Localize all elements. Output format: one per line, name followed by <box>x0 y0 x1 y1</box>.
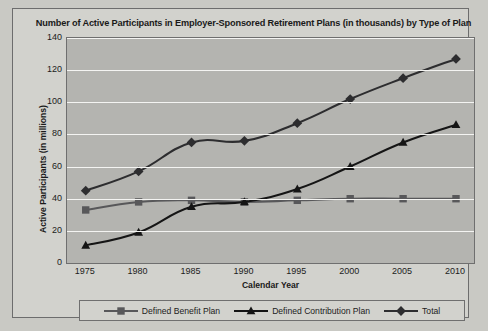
gridline <box>67 134 474 135</box>
x-axis-label: Calendar Year <box>66 280 475 290</box>
legend-marker-diamond-icon <box>384 305 418 317</box>
series-defined-contribution-plan <box>81 120 460 248</box>
y-tick-label: 20 <box>26 225 62 235</box>
gridline <box>67 167 474 168</box>
y-tick-label: 40 <box>26 193 62 203</box>
legend-label: Total <box>422 306 440 316</box>
y-tick-label: 120 <box>26 64 62 74</box>
x-tick-label: 1995 <box>266 266 326 276</box>
gridline <box>67 199 474 200</box>
x-axis-ticks: 19751980198519901995200020052010 <box>66 266 475 280</box>
series-total <box>81 54 461 196</box>
x-tick-label: 1980 <box>108 266 168 276</box>
gridline <box>67 38 474 39</box>
x-tick-label: 1990 <box>213 266 273 276</box>
legend-label: Defined Contribution Plan <box>272 306 370 316</box>
chart-figure: Number of Active Participants in Employe… <box>0 0 488 331</box>
legend-marker-triangle-icon <box>234 305 268 317</box>
y-tick-label: 80 <box>26 128 62 138</box>
gridline <box>67 231 474 232</box>
legend-item-defined-contribution-plan[interactable]: Defined Contribution Plan <box>234 305 370 317</box>
plot-area <box>66 37 475 264</box>
series-lines <box>67 38 474 263</box>
x-tick-label: 2005 <box>372 266 432 276</box>
y-axis-ticks: Active Participants (in millions) 020406… <box>22 37 62 264</box>
legend-label: Defined Benefit Plan <box>142 306 220 316</box>
x-tick-label: 2010 <box>425 266 485 276</box>
chart-frame: Number of Active Participants in Employe… <box>12 8 469 318</box>
y-tick-label: 140 <box>26 32 62 42</box>
x-tick-label: 1985 <box>161 266 221 276</box>
y-tick-label: 60 <box>26 161 62 171</box>
x-tick-label: 1975 <box>55 266 115 276</box>
legend-marker-square-icon <box>104 305 138 317</box>
x-tick-label: 2000 <box>319 266 379 276</box>
gridline <box>67 70 474 71</box>
gridline <box>67 102 474 103</box>
chart-title: Number of Active Participants in Employe… <box>26 18 481 28</box>
legend-item-defined-benefit-plan[interactable]: Defined Benefit Plan <box>104 305 220 317</box>
legend-item-total[interactable]: Total <box>384 305 440 317</box>
y-tick-label: 100 <box>26 96 62 106</box>
chart-legend: Defined Benefit PlanDefined Contribution… <box>79 300 465 321</box>
